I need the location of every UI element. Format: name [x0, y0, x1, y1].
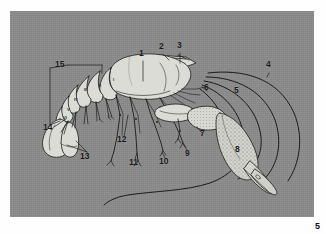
label-3: 3: [177, 41, 182, 50]
segment-numeral-II: II: [99, 83, 101, 88]
label-2: 2: [159, 42, 164, 51]
label-15: 15: [55, 60, 64, 69]
label-14: 14: [43, 123, 52, 132]
label-5: 5: [234, 86, 239, 95]
carapace: [110, 54, 191, 100]
label-11: 11: [129, 158, 138, 167]
segment-numeral-III: III: [84, 87, 87, 92]
label-13: 13: [80, 152, 89, 161]
figure-plate: I II III IV V VI 1 2 3 4 5 6 7 8 9 10 11…: [10, 11, 314, 217]
segment-numeral-I: I: [113, 77, 114, 82]
label-4: 4: [266, 60, 271, 69]
page-number: 5: [315, 221, 320, 231]
label-10: 10: [159, 157, 168, 166]
label-8: 8: [235, 145, 240, 154]
label-12: 12: [117, 135, 126, 144]
label-7: 7: [200, 129, 205, 138]
segment-numeral-V: V: [67, 107, 70, 112]
figure-page: I II III IV V VI 1 2 3 4 5 6 7 8 9 10 11…: [0, 0, 326, 234]
segment-numeral-IV: IV: [74, 97, 78, 102]
label-6: 6: [204, 83, 209, 92]
label-9: 9: [185, 149, 190, 158]
label-1: 1: [139, 49, 144, 58]
large-cheliped: [187, 106, 276, 195]
segment-numeral-VI: VI: [63, 115, 67, 120]
